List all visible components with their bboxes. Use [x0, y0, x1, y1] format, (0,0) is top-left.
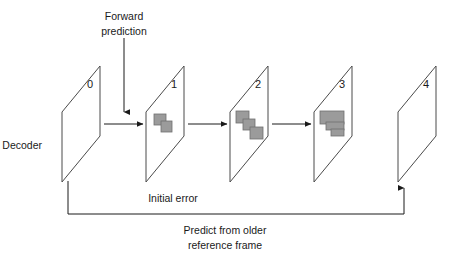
frame-number-label-2: 2: [255, 78, 261, 90]
predict-from-older-reference-frame-arrow: [68, 181, 404, 214]
frame-number-label-0: 0: [87, 78, 93, 90]
feedback-label-line2: reference frame: [188, 239, 262, 251]
diagram-canvas: 01234 Forward prediction Decoder Initial…: [0, 0, 451, 256]
error-block-1-1: [161, 121, 172, 132]
frame-plane-3: 3: [314, 66, 352, 182]
initial-error-label: Initial error: [148, 192, 198, 204]
frame-outline-4: [398, 66, 436, 182]
frame-number-label-4: 4: [423, 78, 429, 90]
frame-number-label-3: 3: [339, 78, 345, 90]
forward-prediction-label-line2: prediction: [101, 25, 147, 37]
error-block-3-2: [331, 129, 344, 136]
frame-plane-4: 4: [398, 66, 436, 182]
frame-plane-0: 0: [62, 66, 100, 182]
frame-outline-0: [62, 66, 100, 182]
frame-number-label-1: 1: [171, 78, 177, 90]
frame-prediction-diagram: 01234 Forward prediction Decoder Initial…: [0, 0, 451, 256]
frame-plane-2: 2: [230, 66, 268, 182]
forward-prediction-label-line1: Forward: [105, 10, 144, 22]
decoder-label: Decoder: [2, 139, 42, 151]
feedback-path-layer: [68, 181, 404, 214]
feedback-label-line1: Predict from older: [184, 224, 267, 236]
arrows-layer: [104, 38, 311, 124]
error-block-2-2: [250, 127, 263, 139]
frame-plane-1: 1: [146, 66, 184, 182]
